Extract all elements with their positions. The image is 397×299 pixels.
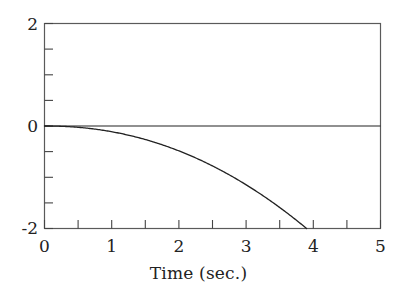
y-tick-label-0: 0: [18, 118, 38, 135]
x-tick-label-1: 1: [106, 238, 117, 255]
figure-canvas: 2 0 -2 0 1 2 3 4 5 Time (sec.): [0, 0, 397, 299]
x-tick-label-5: 5: [375, 238, 386, 255]
x-tick-label-3: 3: [241, 238, 252, 255]
x-tick-label-0: 0: [39, 238, 50, 255]
x-tick-label-2: 2: [173, 238, 184, 255]
x-axis-ticks: [45, 220, 381, 229]
y-tick-label-minus2: -2: [12, 220, 38, 237]
x-tick-label-4: 4: [308, 238, 319, 255]
y-tick-label-2: 2: [18, 16, 38, 33]
x-axis-title: Time (sec.): [0, 263, 397, 283]
response-curve-line: [45, 126, 307, 229]
plot-svg: [0, 0, 397, 299]
